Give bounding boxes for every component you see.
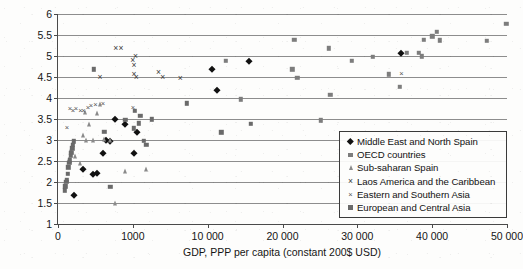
marker-square <box>223 58 227 62</box>
marker-square <box>292 38 296 42</box>
marker-square-dark <box>133 108 137 112</box>
x-axis-tick-mark <box>283 224 284 228</box>
marker-square <box>290 67 294 71</box>
marker-square-dark <box>66 165 70 169</box>
marker-diamond <box>90 170 96 176</box>
marker-square-dark <box>69 150 73 154</box>
x-axis-tick-label: 10 000 <box>192 230 224 242</box>
y-axis-tick-label: 2.5 <box>37 155 52 167</box>
marker-square <box>405 50 409 54</box>
legend-item[interactable]: Middle East and North Spain <box>344 135 502 148</box>
gridline-horizontal <box>58 77 507 78</box>
y-axis-tick-label: 4 <box>46 92 52 104</box>
marker-diamond <box>246 57 252 63</box>
y-axis-tick-mark <box>54 203 58 204</box>
marker-square <box>422 38 426 42</box>
x-axis-tick-mark <box>208 224 209 228</box>
x-axis-tick-label: 1000 <box>121 230 144 242</box>
y-axis-tick-mark <box>54 56 58 57</box>
marker-square <box>504 21 508 25</box>
y-axis-tick-mark <box>54 77 58 78</box>
marker-triangle <box>349 165 353 170</box>
x-axis-tick-label: 30 000 <box>341 230 373 242</box>
marker-square <box>485 39 489 43</box>
legend-item[interactable]: Sub-saharan Spain <box>344 161 502 174</box>
x-axis-title: GDP, PPP per capita (constant 200$ USD) <box>57 246 507 258</box>
marker-diamond <box>131 149 137 155</box>
x-axis-tick-mark <box>357 224 358 228</box>
legend-marker-swatch: × <box>344 188 357 201</box>
x-axis-tick-label: 50 000 <box>491 230 523 242</box>
marker-square <box>328 92 332 96</box>
marker-diamond <box>347 138 353 144</box>
marker-diamond <box>122 120 128 126</box>
gridline-horizontal <box>58 14 507 15</box>
marker-square-dark <box>71 143 75 147</box>
marker-x-small: × <box>89 103 93 111</box>
marker-diamond <box>134 129 140 135</box>
x-axis-tick-mark <box>133 224 134 228</box>
legend-item[interactable]: ×Eastern and Southern Asia <box>344 188 502 201</box>
marker-square-dark <box>69 154 73 158</box>
marker-x-small: × <box>93 101 97 109</box>
y-axis-tick-mark <box>54 182 58 183</box>
marker-triangle <box>81 132 85 137</box>
y-axis-tick-mark <box>54 119 58 120</box>
marker-square-dark <box>108 185 112 189</box>
marker-square-dark <box>63 184 67 188</box>
marker-diamond <box>94 170 100 176</box>
marker-triangle <box>144 167 148 172</box>
legend-item[interactable]: ×Laos America and the Caribbean <box>344 175 502 188</box>
gridline-horizontal <box>58 119 507 120</box>
x-axis-tick-mark <box>58 224 59 228</box>
marker-square-dark <box>249 122 253 126</box>
marker-triangle <box>95 111 99 116</box>
legend-item-label: OECD countries <box>357 149 426 160</box>
marker-triangle <box>69 147 73 152</box>
marker-x-small: × <box>81 107 85 115</box>
marker-square <box>398 84 402 88</box>
marker-x-small: × <box>74 106 78 114</box>
marker-diamond <box>214 87 220 93</box>
marker-square-dark <box>185 101 189 105</box>
marker-square <box>434 30 438 34</box>
marker-square <box>350 58 354 62</box>
y-axis-tick-mark <box>54 14 58 15</box>
legend-item[interactable]: European and Central Asia <box>344 201 502 214</box>
gridline-horizontal <box>58 56 507 57</box>
legend-item-label: Middle East and North Spain <box>357 136 478 147</box>
y-axis-tick-mark <box>54 98 58 99</box>
x-axis-tick-mark <box>432 224 433 228</box>
y-axis-tick-label: 1 <box>46 218 52 230</box>
marker-diamond <box>71 191 77 197</box>
marker-x-small: × <box>86 104 90 112</box>
marker-x-small: × <box>131 104 135 112</box>
marker-triangle <box>83 110 87 115</box>
marker-square <box>437 38 441 42</box>
y-axis-tick-mark <box>54 140 58 141</box>
marker-square <box>416 50 420 54</box>
y-axis-tick-mark <box>54 35 58 36</box>
gridline-horizontal <box>58 98 507 99</box>
legend-marker-swatch <box>344 135 357 148</box>
marker-square-dark <box>136 121 140 125</box>
marker-square-dark <box>70 146 74 150</box>
legend-item-label: Eastern and Southern Asia <box>357 189 470 200</box>
legend-item[interactable]: OECD countries <box>344 148 502 161</box>
marker-square <box>327 46 331 50</box>
marker-square-dark <box>102 129 106 133</box>
legend-marker-swatch: × <box>344 175 357 188</box>
y-axis-tick-label: 4.5 <box>37 71 52 83</box>
marker-diamond <box>79 166 85 172</box>
y-axis-tick-label: 5.5 <box>37 29 52 41</box>
marker-diamond <box>100 150 106 156</box>
marker-x-small: × <box>348 191 352 199</box>
marker-x-small: × <box>101 100 105 108</box>
marker-square-dark <box>131 126 135 130</box>
marker-square <box>387 72 391 76</box>
marker-x-large: × <box>130 56 135 65</box>
legend-item-label: Laos America and the Caribbean <box>357 176 495 187</box>
y-axis-tick-label: 2 <box>46 176 52 188</box>
y-axis-tick-label: 5 <box>46 50 52 62</box>
marker-triangle <box>123 168 127 173</box>
